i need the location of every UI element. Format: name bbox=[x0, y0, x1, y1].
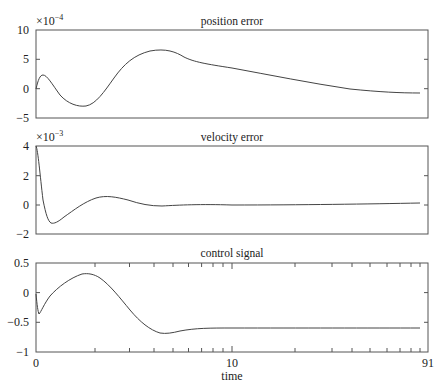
y-tick-label: 0 bbox=[23, 198, 29, 212]
panel-title: control signal bbox=[201, 247, 264, 260]
x-tick-label: 91 bbox=[422, 356, 434, 370]
x-tick-label: 0 bbox=[33, 356, 39, 370]
y-tick-label: −0.5 bbox=[7, 315, 29, 329]
position-error-line bbox=[36, 50, 420, 106]
y-multiplier: ×10−3 bbox=[36, 129, 63, 144]
y-tick-label: −5 bbox=[16, 111, 29, 125]
y-tick-label: −1 bbox=[16, 345, 29, 359]
control-signal-line bbox=[36, 274, 420, 334]
position-error-panel: position error ×10−4 10 5 0 −5 bbox=[16, 13, 428, 125]
y-tick-label: 0.5 bbox=[14, 256, 29, 270]
y-tick-label: 0 bbox=[23, 82, 29, 96]
x-ticks bbox=[95, 263, 420, 352]
figure: position error ×10−4 10 5 0 −5 velocity … bbox=[0, 0, 445, 391]
y-tick-label: 10 bbox=[17, 23, 29, 37]
plot-frame bbox=[36, 263, 428, 352]
x-tick-label: 10 bbox=[226, 356, 238, 370]
plot-frame bbox=[36, 146, 428, 234]
control-signal-panel: control signal 0.5 0 −0.5 −1 bbox=[7, 247, 428, 359]
y-multiplier: ×10−4 bbox=[36, 13, 63, 28]
y-tick-label: 0 bbox=[23, 286, 29, 300]
velocity-error-line bbox=[36, 146, 420, 223]
panel-title: position error bbox=[201, 15, 263, 28]
y-tick-label: 2 bbox=[23, 169, 29, 183]
y-tick-label: 4 bbox=[23, 139, 29, 153]
velocity-error-panel: velocity error ×10−3 4 2 0 −2 bbox=[16, 129, 428, 241]
panel-title: velocity error bbox=[201, 131, 263, 144]
y-tick-label: −2 bbox=[16, 227, 29, 241]
x-axis-label: time bbox=[221, 369, 242, 383]
y-tick-label: 5 bbox=[23, 52, 29, 66]
plot-frame bbox=[36, 30, 428, 118]
